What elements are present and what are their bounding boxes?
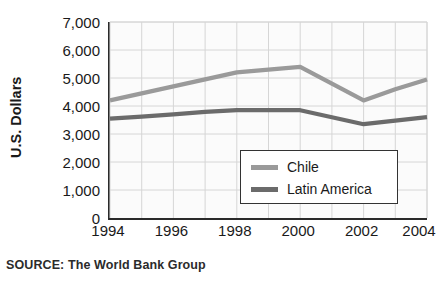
x-axis-tick-label: 2000 (282, 222, 315, 239)
y-axis-tick-label: 3,000 (62, 127, 100, 142)
legend-swatch-latin-america (251, 187, 278, 192)
y-axis-tick-labels: 01,0002,0003,0004,0005,0006,0007,000 (28, 0, 104, 240)
chart-legend: Chile Latin America (240, 150, 398, 204)
x-axis-line (108, 218, 427, 220)
legend-item-latin-america: Latin America (251, 178, 397, 200)
x-axis-tick-label: 2004 (402, 222, 435, 239)
x-axis-tick-label: 2002 (345, 222, 378, 239)
legend-label-chile: Chile (287, 160, 319, 174)
y-axis-tick-label: 4,000 (62, 99, 100, 114)
legend-label-latin-america: Latin America (287, 182, 372, 196)
y-axis-tick-label: 2,000 (62, 155, 100, 170)
legend-swatch-chile (251, 165, 278, 170)
source-note: SOURCE: The World Bank Group (6, 258, 206, 272)
legend-item-chile: Chile (251, 156, 397, 178)
y-axis-tick-label: 7,000 (62, 15, 100, 30)
x-axis-tick-label: 1996 (155, 222, 188, 239)
series-line-chile (110, 67, 427, 101)
series-line-latin-america (110, 110, 427, 124)
x-axis-tick-label: 1994 (91, 222, 124, 239)
x-axis-tick-labels: 199419961998200020022004 (108, 222, 428, 246)
y-axis-tick-label: 5,000 (62, 71, 100, 86)
y-axis-tick-label: 1,000 (62, 183, 100, 198)
x-axis-tick-label: 1998 (218, 222, 251, 239)
y-axis-title: U.S. Dollars (6, 52, 26, 182)
y-axis-tick-label: 6,000 (62, 43, 100, 58)
